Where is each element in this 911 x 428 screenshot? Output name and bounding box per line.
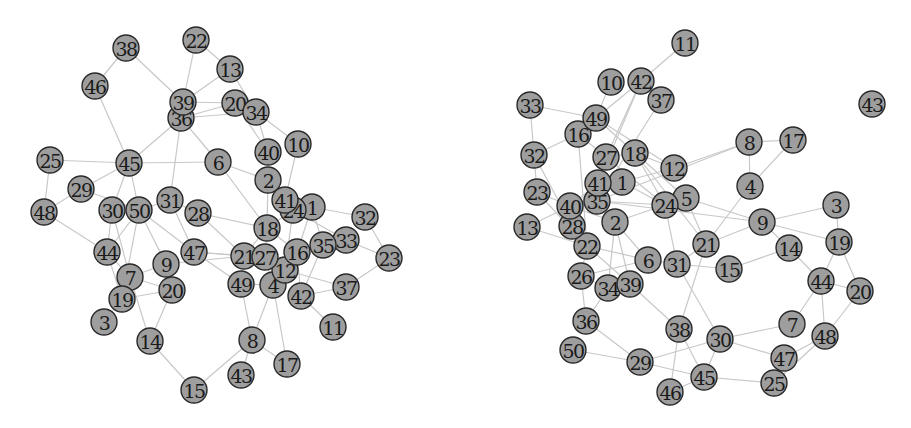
node-13[interactable]: 13 xyxy=(514,214,540,240)
node-label: 4 xyxy=(745,176,757,198)
node-32[interactable]: 32 xyxy=(352,204,378,230)
node-40[interactable]: 40 xyxy=(557,193,583,219)
node-25[interactable]: 25 xyxy=(761,370,787,396)
node-27[interactable]: 27 xyxy=(252,244,278,270)
node-46[interactable]: 46 xyxy=(82,73,108,99)
node-20-bottom[interactable]: 20 xyxy=(159,277,185,303)
node-23[interactable]: 23 xyxy=(524,179,550,205)
node-6[interactable]: 6 xyxy=(635,247,661,273)
node-40[interactable]: 40 xyxy=(255,139,281,165)
node-label: 35 xyxy=(312,235,334,257)
node-38[interactable]: 38 xyxy=(113,35,139,61)
node-10[interactable]: 10 xyxy=(285,131,311,157)
node-20[interactable]: 20 xyxy=(847,278,873,304)
node-4[interactable]: 4 xyxy=(737,173,763,199)
node-label: 7 xyxy=(125,267,136,289)
node-49[interactable]: 49 xyxy=(228,271,254,297)
node-label: 43 xyxy=(861,94,883,116)
node-29[interactable]: 29 xyxy=(68,176,94,202)
node-19[interactable]: 19 xyxy=(109,286,135,312)
node-49[interactable]: 49 xyxy=(583,105,609,131)
node-31[interactable]: 31 xyxy=(157,187,183,213)
node-44[interactable]: 44 xyxy=(94,239,120,265)
node-43[interactable]: 43 xyxy=(228,362,254,388)
node-label: 47 xyxy=(183,242,205,264)
node-13[interactable]: 13 xyxy=(217,56,243,82)
node-label: 21 xyxy=(695,234,716,256)
node-16[interactable]: 16 xyxy=(284,239,310,265)
node-39[interactable]: 39 xyxy=(170,89,196,115)
node-7[interactable]: 7 xyxy=(779,311,805,337)
node-37[interactable]: 37 xyxy=(333,274,359,300)
node-9[interactable]: 9 xyxy=(749,209,775,235)
node-label: 11 xyxy=(674,33,695,55)
node-23[interactable]: 23 xyxy=(376,245,402,271)
node-50[interactable]: 50 xyxy=(126,197,152,223)
node-label: 8 xyxy=(744,132,755,154)
node-41[interactable]: 41 xyxy=(272,187,298,213)
node-6[interactable]: 6 xyxy=(205,149,231,175)
node-26[interactable]: 26 xyxy=(568,263,594,289)
node-43[interactable]: 43 xyxy=(859,91,885,117)
node-label: 38 xyxy=(115,38,137,60)
node-37[interactable]: 37 xyxy=(648,87,674,113)
node-9[interactable]: 9 xyxy=(153,251,179,277)
node-45[interactable]: 45 xyxy=(116,150,142,176)
node-25[interactable]: 25 xyxy=(37,147,63,173)
node-39[interactable]: 39 xyxy=(617,271,643,297)
node-42[interactable]: 42 xyxy=(628,68,654,94)
node-48[interactable]: 48 xyxy=(31,199,57,225)
node-12[interactable]: 12 xyxy=(661,155,687,181)
node-3[interactable]: 3 xyxy=(91,309,117,335)
node-31[interactable]: 31 xyxy=(664,251,690,277)
node-30[interactable]: 30 xyxy=(707,326,733,352)
node-3[interactable]: 3 xyxy=(823,192,849,218)
node-label: 26 xyxy=(570,266,592,288)
node-47[interactable]: 47 xyxy=(181,239,207,265)
node-label: 27 xyxy=(595,147,617,169)
node-35[interactable]: 35 xyxy=(310,232,336,258)
node-17[interactable]: 17 xyxy=(274,351,300,377)
node-50[interactable]: 50 xyxy=(560,337,586,363)
node-27[interactable]: 27 xyxy=(593,144,619,170)
node-44[interactable]: 44 xyxy=(808,268,834,294)
node-30[interactable]: 30 xyxy=(99,197,125,223)
node-8[interactable]: 8 xyxy=(239,327,265,353)
node-1[interactable]: 1 xyxy=(609,169,635,195)
node-11[interactable]: 11 xyxy=(672,30,698,56)
node-42[interactable]: 42 xyxy=(288,283,314,309)
node-46[interactable]: 46 xyxy=(657,379,683,405)
node-24[interactable]: 24 xyxy=(652,192,678,218)
node-33[interactable]: 33 xyxy=(517,92,543,118)
node-34[interactable]: 34 xyxy=(243,99,269,125)
node-14[interactable]: 14 xyxy=(776,235,802,261)
node-label: 46 xyxy=(659,382,681,404)
node-45[interactable]: 45 xyxy=(691,364,717,390)
node-33[interactable]: 33 xyxy=(333,227,359,253)
node-15[interactable]: 15 xyxy=(181,377,207,403)
node-32[interactable]: 32 xyxy=(521,142,547,168)
node-label: 20 xyxy=(849,281,871,303)
node-14[interactable]: 14 xyxy=(137,328,163,354)
node-28[interactable]: 28 xyxy=(185,200,211,226)
node-47[interactable]: 47 xyxy=(771,345,797,371)
node-48[interactable]: 48 xyxy=(812,323,838,349)
node-29[interactable]: 29 xyxy=(627,349,653,375)
node-8[interactable]: 8 xyxy=(736,129,762,155)
node-label: 20 xyxy=(161,280,183,302)
node-15[interactable]: 15 xyxy=(716,256,742,282)
node-10[interactable]: 10 xyxy=(598,69,624,95)
node-label: 49 xyxy=(230,274,252,296)
node-18[interactable]: 18 xyxy=(254,215,280,241)
node-17[interactable]: 17 xyxy=(780,127,806,153)
node-18[interactable]: 18 xyxy=(622,140,648,166)
node-36[interactable]: 36 xyxy=(573,308,599,334)
node-38[interactable]: 38 xyxy=(666,316,692,342)
node-19[interactable]: 19 xyxy=(826,229,852,255)
node-41[interactable]: 41 xyxy=(585,170,611,196)
node-21[interactable]: 21 xyxy=(693,231,719,257)
node-label: 14 xyxy=(139,331,162,353)
node-11[interactable]: 11 xyxy=(320,314,346,340)
node-label: 50 xyxy=(128,200,150,222)
node-22[interactable]: 22 xyxy=(183,27,209,53)
